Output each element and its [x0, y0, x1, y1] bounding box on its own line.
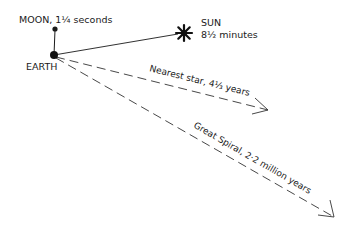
great-spiral-label: Great Spiral, 2·2 million years: [192, 120, 313, 196]
sun-label: SUN: [201, 17, 221, 28]
earth-icon: [50, 51, 58, 59]
moon-label: MOON, 1¼ seconds: [19, 14, 112, 25]
earth-label: EARTH: [26, 61, 57, 72]
sun-time-label: 8½ minutes: [201, 29, 258, 40]
sun-icon: [176, 25, 192, 41]
earth-sun-line: [54, 34, 178, 55]
diagram-canvas: MOON, 1¼ seconds EARTH SUN 8½ minutes Ne…: [0, 0, 354, 236]
moon-icon: [52, 26, 57, 31]
